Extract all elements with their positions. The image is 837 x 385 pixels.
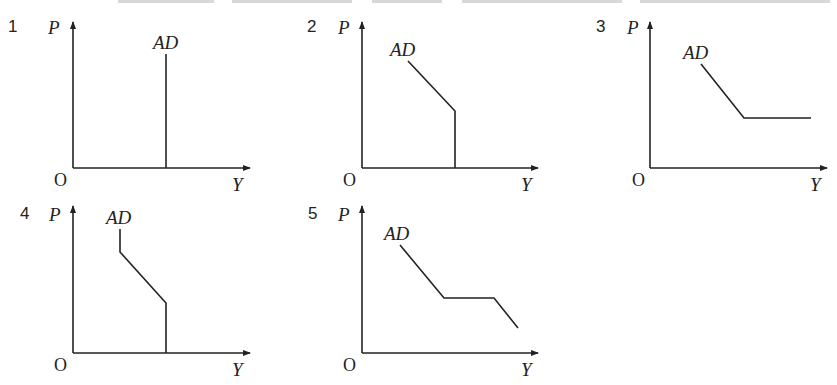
panel-number: 2 [307, 17, 316, 36]
panel-3: 3 P O Y AD [596, 17, 827, 195]
panel-number: 5 [308, 204, 317, 223]
y-axis-label: P [337, 17, 350, 38]
panel-number: 3 [596, 17, 605, 36]
x-axis-label: Y [810, 174, 823, 195]
ad-curve [400, 245, 518, 328]
panel-number: 1 [8, 17, 17, 36]
ad-curve [408, 61, 455, 168]
y-axis-label: P [47, 17, 60, 38]
curve-label: AD [104, 207, 132, 228]
origin-label: O [343, 355, 356, 375]
x-axis-label: Y [521, 359, 534, 380]
panel-4: 4 P O Y AD [20, 204, 250, 380]
curve-label: AD [382, 223, 410, 244]
ad-curves-figure: 1 P O Y AD 2 P O Y AD 3 P O Y AD 4 P O Y [0, 0, 837, 385]
y-axis-label: P [626, 17, 639, 38]
x-axis-label: Y [521, 174, 534, 195]
y-axis-label: P [337, 204, 350, 225]
panel-number: 4 [20, 204, 29, 223]
curve-label: AD [151, 32, 179, 53]
origin-label: O [343, 170, 356, 190]
ad-curve [120, 229, 166, 353]
curve-label: AD [388, 39, 416, 60]
panel-5: 5 P O Y AD [308, 204, 538, 380]
x-axis-label: Y [232, 359, 245, 380]
panel-1: 1 P O Y AD [8, 17, 250, 195]
curve-label: AD [681, 42, 709, 63]
origin-label: O [54, 170, 67, 190]
origin-label: O [632, 170, 645, 190]
panel-2: 2 P O Y AD [307, 17, 538, 195]
x-axis-label: Y [232, 174, 245, 195]
y-axis-label: P [48, 204, 61, 225]
ad-curve [701, 64, 811, 118]
origin-label: O [54, 355, 67, 375]
